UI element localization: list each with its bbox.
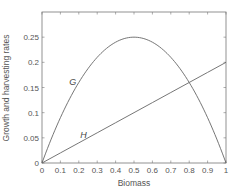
series-g-line [42, 37, 226, 163]
x-tick-label: 1 [224, 166, 229, 175]
y-tick-label: 0.05 [23, 134, 39, 143]
curve-labels: GH [69, 77, 87, 140]
x-tick-label: 0.6 [147, 166, 159, 175]
x-tick-label: 0.9 [202, 166, 214, 175]
y-tick-label: 0.1 [28, 109, 40, 118]
curve-label-g: G [69, 77, 76, 87]
y-tick-label: 0 [35, 159, 40, 168]
curve-label-h: H [80, 130, 87, 140]
y-tick-label: 0.15 [23, 84, 39, 93]
x-axis-label: Biomass [118, 178, 151, 188]
x-tick-label: 0.8 [184, 166, 196, 175]
y-tick-label: 0.25 [23, 33, 39, 42]
plot-frame [42, 12, 226, 163]
series-lines [42, 37, 226, 163]
y-axis-ticks: 00.050.10.150.20.25 [23, 33, 226, 168]
chart: 00.10.20.30.40.50.60.70.80.91 00.050.10.… [0, 0, 236, 195]
y-tick-label: 0.2 [28, 58, 40, 67]
x-axis-ticks: 00.10.20.30.40.50.60.70.80.91 [40, 12, 229, 175]
x-tick-label: 0.2 [73, 166, 85, 175]
x-tick-label: 0.4 [110, 166, 122, 175]
x-tick-label: 0.3 [92, 166, 104, 175]
plot-area-border [42, 12, 226, 163]
x-tick-label: 0.5 [128, 166, 140, 175]
x-tick-label: 0.7 [165, 166, 177, 175]
x-tick-label: 0 [40, 166, 45, 175]
x-tick-label: 0.1 [55, 166, 67, 175]
y-axis-label: Growth and harvesting rates [1, 35, 11, 142]
